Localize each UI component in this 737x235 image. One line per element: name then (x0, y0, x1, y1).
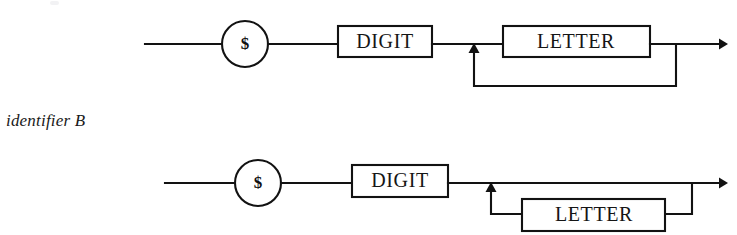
loop-entry-b (491, 189, 522, 214)
node-label-digit-a: DIGIT (356, 30, 413, 52)
terminal-dollar-label-a: $ (241, 34, 250, 53)
figure-root: identifier B $ DIGIT LETTER (0, 0, 737, 235)
syntax-diagrams-canvas: $ DIGIT LETTER $ (0, 0, 737, 235)
exit-arrowhead-a (719, 39, 728, 50)
node-label-digit-b: DIGIT (371, 169, 428, 191)
node-label-letter-b: LETTER (555, 203, 633, 225)
node-label-letter-a: LETTER (537, 30, 615, 52)
terminal-dollar-label-b: $ (254, 173, 263, 192)
loop-exit-b (665, 183, 692, 214)
exit-arrowhead-b (719, 178, 728, 189)
diagram-identifier-a: $ DIGIT LETTER (145, 21, 728, 86)
diagram-identifier-b: $ DIGIT LETTER (165, 160, 728, 231)
